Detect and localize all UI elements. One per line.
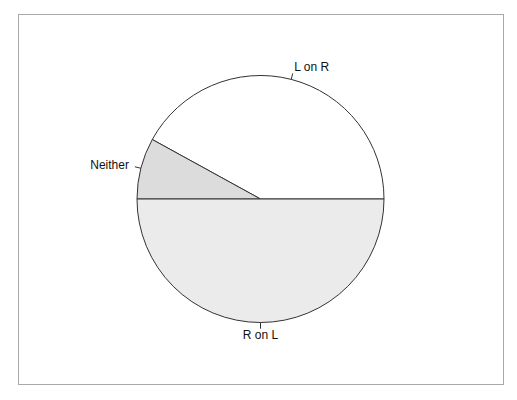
slice-label-neither: Neither bbox=[90, 158, 129, 172]
slice-label-r-on-l: R on L bbox=[243, 328, 279, 342]
label-tick bbox=[291, 73, 293, 79]
label-tick bbox=[135, 167, 141, 169]
slice-r-on-l bbox=[137, 199, 384, 323]
pie-slices bbox=[137, 75, 384, 322]
slice-label-l-on-r: L on R bbox=[294, 60, 329, 74]
pie-chart: L on R Neither R on L bbox=[0, 0, 517, 400]
